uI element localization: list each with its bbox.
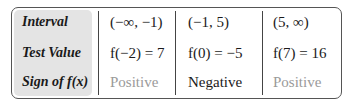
test-value-2: f(0) = −5 xyxy=(188,45,242,62)
interval-2: (−1, 5) xyxy=(188,14,229,31)
test-value-3: f(7) = 16 xyxy=(273,45,326,62)
interval-1: (−∞, −1) xyxy=(110,14,163,31)
column-divider xyxy=(175,11,176,95)
interval-3: (5, ∞) xyxy=(273,14,309,31)
column-divider xyxy=(262,11,263,95)
sign-3: Positive xyxy=(273,74,321,91)
label-interval: Interval xyxy=(22,14,68,30)
label-sign: Sign of f(x) xyxy=(22,74,88,90)
label-test-value: Test Value xyxy=(22,45,81,61)
sign-2: Negative xyxy=(188,74,242,91)
test-value-1: f(−2) = 7 xyxy=(110,45,164,62)
column-divider xyxy=(98,11,99,95)
sign-1: Positive xyxy=(110,74,158,91)
